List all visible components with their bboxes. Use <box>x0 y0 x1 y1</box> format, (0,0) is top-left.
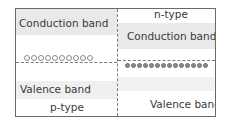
n-conduction-band-label: Conduction band <box>127 30 216 42</box>
n-valence-band-shade <box>118 77 215 91</box>
electron-icon <box>203 63 208 68</box>
electron-icon <box>137 63 142 68</box>
hole-icon <box>38 55 44 61</box>
hole-icon <box>24 55 30 61</box>
hole-icon <box>59 55 65 61</box>
p-fermi-level-line <box>16 62 117 63</box>
hole-icon <box>31 55 37 61</box>
electron-icon <box>191 63 196 68</box>
hole-icon <box>73 55 79 61</box>
electron-icon <box>167 63 172 68</box>
electrons-row <box>125 63 208 68</box>
electron-icon <box>173 63 178 68</box>
n-type-label: n-type <box>154 8 188 20</box>
electron-icon <box>143 63 148 68</box>
hole-icon <box>66 55 72 61</box>
hole-icon <box>52 55 58 61</box>
n-valence-band-label: Valence band <box>150 98 216 110</box>
electron-icon <box>125 63 130 68</box>
electron-icon <box>161 63 166 68</box>
electron-icon <box>155 63 160 68</box>
electron-icon <box>179 63 184 68</box>
hole-icon <box>45 55 51 61</box>
electron-icon <box>185 63 190 68</box>
electron-icon <box>131 63 136 68</box>
electron-icon <box>149 63 154 68</box>
junction-divider <box>117 9 118 116</box>
band-diagram-frame: Conduction band n-type Conduction band V… <box>15 8 216 117</box>
hole-icon <box>87 55 93 61</box>
p-valence-band-label: Valence band <box>20 83 91 95</box>
p-type-label: p-type <box>50 101 84 113</box>
holes-row <box>24 55 93 61</box>
hole-icon <box>80 55 86 61</box>
n-fermi-level-line <box>118 60 215 61</box>
electron-icon <box>197 63 202 68</box>
p-conduction-band-label: Conduction band <box>19 17 108 29</box>
